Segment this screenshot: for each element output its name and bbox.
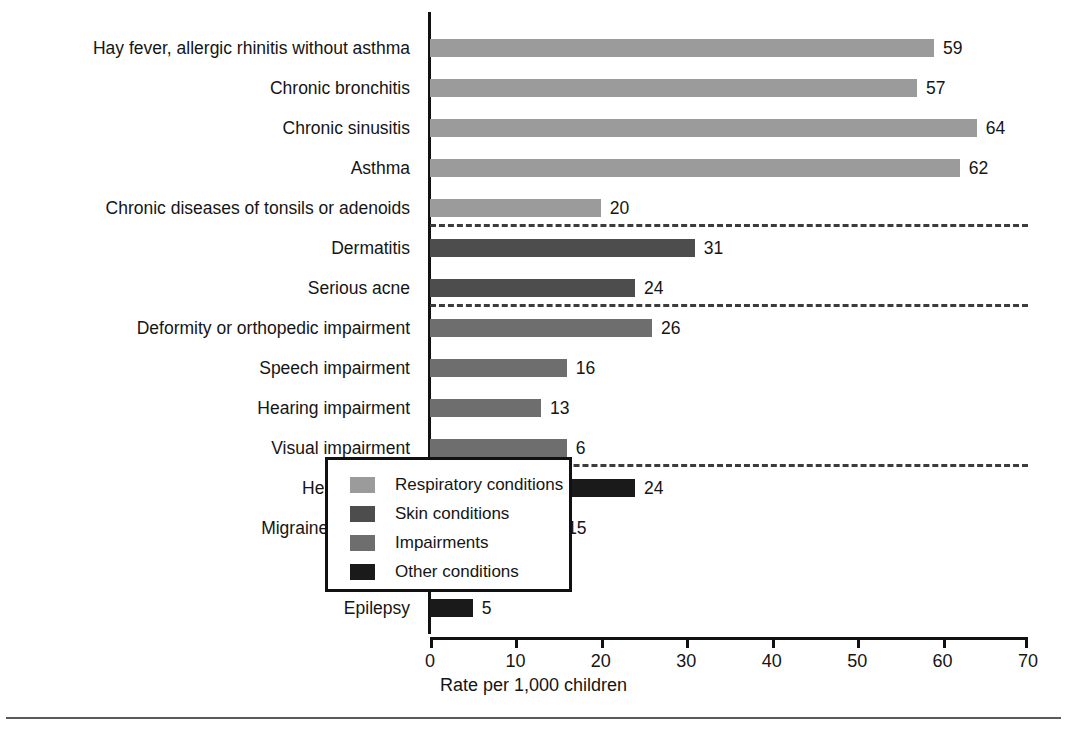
legend-label: Skin conditions — [395, 504, 509, 524]
bar-row: 24 — [430, 268, 1028, 308]
bar-value-label: 20 — [610, 198, 629, 218]
category-label: Dermatitis — [0, 228, 420, 268]
legend-label: Other conditions — [395, 562, 519, 582]
legend-item: Impairments — [350, 528, 569, 557]
bar-value-label: 31 — [704, 238, 723, 258]
x-axis-tick-label: 10 — [495, 650, 535, 672]
x-axis-tick-label: 50 — [837, 650, 877, 672]
bar — [430, 199, 601, 217]
x-axis-tick — [943, 637, 946, 648]
bar-row: 64 — [430, 108, 1028, 148]
bar-value-label: 26 — [661, 318, 680, 338]
bar-row: 31 — [430, 228, 1028, 268]
bar-row: 26 — [430, 308, 1028, 348]
x-axis-title: Rate per 1,000 children — [0, 675, 1067, 696]
legend-swatch-icon — [350, 564, 375, 580]
x-axis-line: 010203040506070 — [430, 637, 1028, 640]
category-label: Chronic bronchitis — [0, 68, 420, 108]
legend-swatch-icon — [350, 477, 375, 493]
legend-swatch-icon — [350, 535, 375, 551]
bar-row: 5 — [430, 588, 1028, 628]
bar-value-label: 57 — [926, 78, 945, 98]
category-label: Chronic diseases of tonsils or adenoids — [0, 188, 420, 228]
chart-legend: Respiratory conditionsSkin conditionsImp… — [325, 457, 572, 592]
bar-row: 13 — [430, 388, 1028, 428]
legend-label: Respiratory conditions — [395, 475, 563, 495]
x-axis-tick — [1025, 637, 1028, 648]
x-axis-tick-label: 70 — [1008, 650, 1048, 672]
category-label: Hearing impairment — [0, 388, 420, 428]
category-label: Asthma — [0, 148, 420, 188]
category-label: Serious acne — [0, 268, 420, 308]
legend-item: Other conditions — [350, 557, 569, 586]
group-separator — [430, 224, 1028, 227]
bar-value-label: 6 — [576, 438, 586, 458]
x-axis-tick-label: 20 — [581, 650, 621, 672]
bar-value-label: 24 — [644, 278, 663, 298]
x-axis-tick — [857, 637, 860, 648]
x-axis-tick — [430, 637, 433, 648]
bar-row: 20 — [430, 188, 1028, 228]
bar-value-label: 62 — [969, 158, 988, 178]
bar-value-label: 16 — [576, 358, 595, 378]
bar — [430, 599, 473, 617]
category-label: Deformity or orthopedic impairment — [0, 308, 420, 348]
category-label: Speech impairment — [0, 348, 420, 388]
bar-value-label: 5 — [482, 598, 492, 618]
bar-value-label: 13 — [550, 398, 569, 418]
category-label: Hay fever, allergic rhinitis without ast… — [0, 28, 420, 68]
x-axis-tick — [601, 637, 604, 648]
group-separator — [430, 304, 1028, 307]
bar-row: 59 — [430, 28, 1028, 68]
bar-value-label: 24 — [644, 478, 663, 498]
bar — [430, 239, 695, 257]
x-axis-tick-label: 0 — [410, 650, 450, 672]
bar — [430, 439, 567, 457]
bar — [430, 399, 541, 417]
x-axis-tick — [772, 637, 775, 648]
bar — [430, 79, 917, 97]
x-axis-tick — [686, 637, 689, 648]
bar-row: 16 — [430, 348, 1028, 388]
category-label: Chronic sinusitis — [0, 108, 420, 148]
category-label: Epilepsy — [0, 588, 420, 628]
bar-value-label: 59 — [943, 38, 962, 58]
bar-value-label: 64 — [986, 118, 1005, 138]
legend-item: Skin conditions — [350, 499, 569, 528]
legend-label: Impairments — [395, 533, 489, 553]
bar — [430, 119, 977, 137]
x-axis-tick-label: 60 — [923, 650, 963, 672]
bar — [430, 359, 567, 377]
figure-bottom-rule — [6, 717, 1061, 719]
bar-row: 62 — [430, 148, 1028, 188]
bar — [430, 319, 652, 337]
x-axis-tick — [515, 637, 518, 648]
bar — [430, 39, 934, 57]
legend-item: Respiratory conditions — [350, 470, 569, 499]
bar-row: 57 — [430, 68, 1028, 108]
bar — [430, 279, 635, 297]
legend-swatch-icon — [350, 506, 375, 522]
bar — [430, 159, 960, 177]
x-axis-tick-label: 40 — [752, 650, 792, 672]
chart-figure: Hay fever, allergic rhinitis without ast… — [0, 0, 1067, 735]
x-axis-tick-label: 30 — [666, 650, 706, 672]
